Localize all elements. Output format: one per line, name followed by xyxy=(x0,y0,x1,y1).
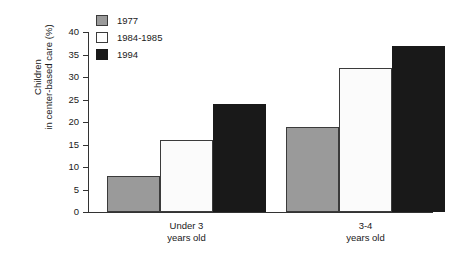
bar-1984-1985-Under-3-years-old xyxy=(160,140,213,212)
y-axis-title-line-1: Children xyxy=(32,59,44,95)
plot-area: 0510152025303540 Under 3years old3-4year… xyxy=(88,32,433,212)
x-axis-group-label: Under 3years old xyxy=(87,220,286,244)
y-axis-tick-label: 25 xyxy=(68,94,79,105)
bar-1984-1985-3-4-years-old xyxy=(339,68,392,212)
x-axis-group-label: 3-4years old xyxy=(266,220,461,244)
x-axis-group-label-line: years old xyxy=(266,232,461,244)
y-axis-tick-label: 10 xyxy=(68,161,79,172)
x-axis-group-label-line: years old xyxy=(87,232,286,244)
y-axis-tick: 30 xyxy=(83,77,88,78)
y-axis-tick: 15 xyxy=(83,145,88,146)
y-axis-tick: 40 xyxy=(83,32,88,33)
y-axis-tick-label: 30 xyxy=(68,71,79,82)
y-axis-tick-label: 40 xyxy=(68,26,79,37)
y-axis-tick-label: 15 xyxy=(68,139,79,150)
y-axis-tick: 20 xyxy=(83,122,88,123)
y-axis-tick: 10 xyxy=(83,167,88,168)
legend-item-1977: 1977 xyxy=(96,12,162,29)
y-axis-title: Children in center-based care (%) xyxy=(26,0,60,172)
y-axis-title-line-2: in center-based care (%) xyxy=(43,24,55,129)
bar-chart: Children in center-based care (%) 1977 1… xyxy=(0,0,461,253)
y-axis-tick-label: 0 xyxy=(74,206,79,217)
x-axis-group-label-line: Under 3 xyxy=(87,220,286,232)
y-axis-line xyxy=(88,32,89,212)
x-axis-group-label-line: 3-4 xyxy=(266,220,461,232)
legend-swatch-icon-1977 xyxy=(96,15,108,26)
y-axis-tick: 0 xyxy=(83,212,88,213)
bar-1977-3-4-years-old xyxy=(286,127,339,213)
bar-1994-Under-3-years-old xyxy=(213,104,266,212)
bar-1977-Under-3-years-old xyxy=(107,176,160,212)
legend-label-1977: 1977 xyxy=(117,15,138,26)
y-axis-tick: 35 xyxy=(83,55,88,56)
bar-1994-3-4-years-old xyxy=(392,46,445,213)
y-axis-tick-label: 20 xyxy=(68,116,79,127)
y-axis-tick-label: 5 xyxy=(74,184,79,195)
y-axis-tick: 5 xyxy=(83,190,88,191)
y-axis-tick-label: 35 xyxy=(68,49,79,60)
y-axis-tick: 25 xyxy=(83,100,88,101)
x-axis-line xyxy=(88,212,433,213)
